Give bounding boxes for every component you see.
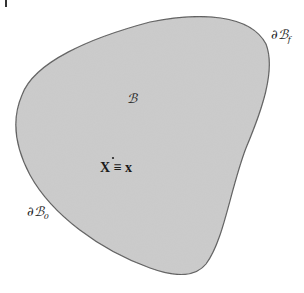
body-diagram (0, 0, 304, 293)
boundary-symbol: ∂ℬ (271, 27, 288, 42)
reference-point-label: X (100, 160, 110, 175)
boundary-symbol: ∂ℬ (27, 204, 44, 219)
boundary-subscript: f (288, 35, 291, 44)
body-symbol: ℬ (127, 91, 137, 106)
body-region (16, 17, 269, 275)
point-label: X ≡ x (100, 160, 132, 176)
traction-boundary-label: ∂ℬf (271, 27, 291, 44)
equiv-symbol: ≡ (114, 160, 122, 175)
corner-tick-mark (5, 0, 7, 7)
boundary-subscript: 0 (44, 212, 49, 221)
body-label: ℬ (127, 91, 137, 106)
material-point-dot (112, 157, 114, 159)
current-point-label: x (125, 160, 132, 175)
displacement-boundary-label: ∂ℬ0 (27, 204, 49, 221)
